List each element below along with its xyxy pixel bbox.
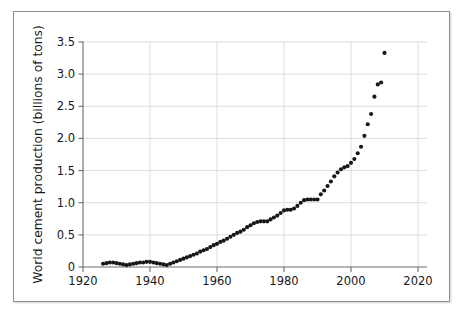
- data-point: [346, 164, 350, 168]
- data-point: [382, 51, 386, 55]
- data-point: [242, 228, 246, 232]
- y-tick-label: 3.5: [57, 35, 75, 49]
- data-point: [319, 192, 323, 196]
- y-axis-ticks: 00.51.01.52.02.53.03.5: [57, 35, 83, 274]
- data-point: [332, 174, 336, 178]
- data-point: [379, 80, 383, 84]
- x-tick-label: 2000: [336, 274, 365, 288]
- data-point: [352, 157, 356, 161]
- data-point: [322, 188, 326, 192]
- axes: [83, 42, 427, 268]
- data-point: [359, 145, 363, 149]
- chart-plot-area: 00.51.01.52.02.53.03.5192019401960198020…: [0, 0, 463, 317]
- y-tick-label: 1.5: [57, 164, 75, 178]
- y-axis-title: World cement production (billions of ton…: [31, 25, 45, 284]
- x-gridlines: [150, 42, 418, 267]
- data-point: [362, 134, 366, 138]
- cement-production-scatter-chart: 00.51.01.52.02.53.03.5192019401960198020…: [0, 0, 463, 317]
- x-axis-ticks: 192019401960198020002020: [68, 267, 432, 288]
- x-tick-label: 1980: [269, 274, 298, 288]
- y-tick-label: 0.5: [57, 228, 75, 242]
- y-gridlines: [83, 42, 427, 235]
- data-point: [356, 151, 360, 155]
- y-tick-label: 2.0: [57, 131, 75, 145]
- data-point: [315, 197, 319, 201]
- y-tick-label: 0: [68, 260, 75, 274]
- data-point: [275, 214, 279, 218]
- y-tick-label: 2.5: [57, 99, 75, 113]
- data-point: [325, 184, 329, 188]
- data-point: [372, 95, 376, 99]
- data-point: [366, 122, 370, 126]
- y-tick-label: 1.0: [57, 196, 75, 210]
- data-point: [279, 211, 283, 215]
- x-tick-label: 1940: [135, 274, 164, 288]
- data-point: [336, 170, 340, 174]
- x-tick-label: 2020: [403, 274, 432, 288]
- data-point: [292, 206, 296, 210]
- data-point: [329, 179, 333, 183]
- figure-canvas: 00.51.01.52.02.53.03.5192019401960198020…: [0, 0, 463, 317]
- data-point: [349, 161, 353, 165]
- x-tick-label: 1960: [202, 274, 231, 288]
- data-point: [299, 201, 303, 205]
- y-tick-label: 3.0: [57, 67, 75, 81]
- data-point: [369, 112, 373, 116]
- data-point: [295, 204, 299, 208]
- x-tick-label: 1920: [68, 274, 97, 288]
